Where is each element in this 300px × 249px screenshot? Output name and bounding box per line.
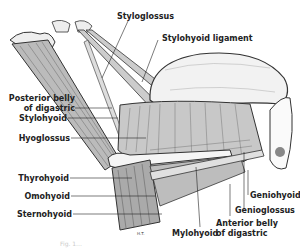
artist-initials: H.T.: [137, 231, 144, 236]
label-stylohyoid: Stylohyoid: [3, 114, 67, 123]
label-hyoglossus: Hyoglossus: [3, 134, 70, 143]
anatomy-figure: Styloglossus Stylohyoid ligament Posteri…: [0, 0, 300, 249]
label-omohyoid: Omohyoid: [3, 192, 70, 201]
label-anterior-belly-line1: Anterior belly: [216, 219, 278, 228]
label-thyrohyoid: Thyrohyoid: [3, 174, 69, 183]
label-genioglossus: Genioglossus: [235, 206, 295, 215]
label-geniohyoid: Geniohyoid: [250, 191, 300, 200]
label-posterior-belly-line2: of digastric: [3, 104, 75, 113]
label-posterior-belly-line1: Posterior belly: [3, 94, 75, 103]
label-mylohyoid: Mylohyoid: [172, 229, 218, 238]
label-stylohyoid-ligament: Stylohyoid ligament: [162, 34, 253, 43]
label-styloglossus: Styloglossus: [117, 12, 174, 21]
label-anterior-belly-line2: of digastric: [216, 229, 267, 238]
label-sternohyoid: Sternohyoid: [3, 210, 72, 219]
figure-caption: Fig. 1…: [60, 240, 82, 247]
